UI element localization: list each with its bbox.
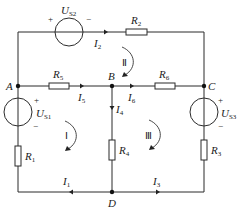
- loop-label-3: Ⅲ: [145, 130, 152, 141]
- arrow-right-icon: [80, 84, 84, 89]
- source-label-us3: US3: [221, 107, 237, 121]
- resistor-icon: [109, 140, 115, 160]
- resistor-r4: R4: [109, 140, 130, 160]
- arrow-right-icon: [104, 30, 108, 35]
- resistor-label-r6: R6: [158, 68, 170, 82]
- currents: I2 I5 I6 I4 I1 I3: [62, 30, 161, 195]
- arrowhead-icon: [65, 146, 71, 151]
- resistor-r2: R2: [126, 14, 147, 35]
- resistor-label-r2: R2: [130, 14, 142, 28]
- resistor-r6: R6: [155, 68, 175, 89]
- resistor-icon: [155, 83, 175, 89]
- resistor-r1: R1: [15, 146, 36, 166]
- arrowhead-icon: [122, 72, 128, 77]
- resistor-icon: [15, 146, 21, 166]
- arrow-down-icon: [110, 106, 115, 110]
- polarity-minus: −: [218, 121, 223, 131]
- node-label-c: C: [208, 80, 216, 92]
- polarity-minus: −: [33, 121, 38, 131]
- node-a-dot: [16, 84, 20, 88]
- current-label-i3: I3: [152, 175, 161, 189]
- current-label-i4: I4: [115, 103, 124, 117]
- source-label-us2: US2: [61, 4, 77, 18]
- node-c-dot: [202, 84, 206, 88]
- resistor-icon: [201, 140, 207, 160]
- resistor-icon: [49, 83, 69, 89]
- resistor-label-r4: R4: [118, 144, 130, 158]
- current-label-i1: I1: [62, 175, 71, 189]
- node-label-b: B: [108, 70, 115, 82]
- loop-label-1: Ⅰ: [65, 130, 68, 141]
- polarity-plus: +: [34, 95, 39, 105]
- loop-label-2: Ⅱ: [122, 57, 127, 68]
- node-label-a: A: [5, 80, 13, 92]
- arrow-right-icon: [156, 190, 160, 195]
- resistor-r5: R5: [49, 68, 69, 89]
- polarity-plus: +: [48, 14, 53, 24]
- resistor-label-r5: R5: [52, 68, 64, 82]
- current-label-i6: I6: [127, 91, 136, 105]
- mesh-loop-3: Ⅲ: [145, 120, 160, 150]
- arrow-right-icon: [130, 84, 134, 89]
- resistor-icon: [126, 29, 147, 35]
- circuit-diagram: + − US2 + − US1 + − US3 R2 R5 R6 R1 R4 R…: [0, 0, 237, 215]
- arrow-left-icon: [69, 190, 73, 195]
- node-d-dot: [110, 190, 114, 194]
- resistor-r3: R3: [201, 140, 222, 160]
- source-label-us1: US1: [36, 107, 52, 121]
- mesh-loop-2: Ⅱ: [122, 47, 133, 77]
- resistor-label-r1: R1: [24, 150, 36, 164]
- current-label-i5: I5: [77, 91, 86, 105]
- voltage-source-us3: + − US3: [190, 95, 237, 131]
- voltage-source-us1: + − US1: [4, 95, 52, 131]
- wires: [18, 32, 204, 192]
- polarity-plus: +: [218, 95, 223, 105]
- node-b-dot: [110, 84, 114, 88]
- arrowhead-icon: [149, 145, 155, 150]
- current-label-i2: I2: [93, 37, 102, 51]
- resistor-label-r3: R3: [210, 144, 222, 158]
- mesh-loop-1: Ⅰ: [65, 121, 76, 151]
- node-label-d: D: [107, 197, 116, 209]
- polarity-minus: −: [86, 14, 91, 24]
- voltage-source-us2: + − US2: [48, 4, 91, 46]
